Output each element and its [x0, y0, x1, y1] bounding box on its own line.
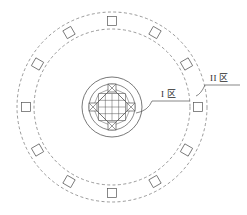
zone-1-label: I 区	[161, 89, 176, 99]
ring-module-square	[63, 26, 75, 38]
ring-module-square	[194, 103, 203, 112]
crossed-square-node	[89, 103, 97, 111]
ring-module-square	[149, 175, 161, 187]
zone-2-leader-line	[196, 85, 240, 96]
ring-module-square	[180, 58, 192, 70]
zone-1-leader-line	[136, 101, 190, 113]
crossed-square-node	[108, 122, 116, 130]
ring-module-square	[31, 58, 43, 70]
zone-2-label: II 区	[210, 73, 229, 83]
ring-module-square	[22, 103, 31, 112]
ring-module-square	[31, 144, 43, 156]
ring-module-square	[108, 17, 117, 26]
crossed-square-node	[108, 84, 116, 92]
drawing-canvas: I 区 II 区	[0, 0, 247, 215]
technical-drawing: I 区 II 区	[0, 0, 247, 215]
ring-module-square	[180, 144, 192, 156]
zone-2-leader: II 区	[196, 73, 240, 96]
ring-module-square	[149, 26, 161, 38]
zone-1-leader: I 区	[136, 89, 190, 113]
ring-module-square	[108, 189, 117, 198]
ring-module-square	[63, 175, 75, 187]
crossed-square-node	[127, 103, 135, 111]
